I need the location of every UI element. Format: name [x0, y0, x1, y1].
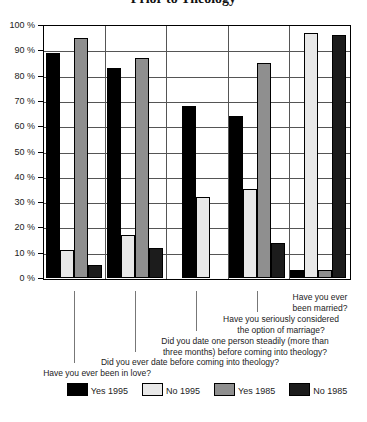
legend-swatch-no-1985: [289, 383, 310, 396]
bar-no-1995: [196, 197, 210, 278]
bar-no-1995: [121, 235, 135, 278]
y-axis-tick-label: 40 %: [0, 173, 35, 182]
bar-yes-1985: [135, 58, 149, 278]
bar-no-1985: [271, 243, 285, 278]
bar-no-1985: [149, 248, 163, 278]
legend-item: Yes 1995: [67, 383, 128, 396]
bar-yes-1985: [74, 38, 88, 278]
y-axis-tick-label: 90 %: [0, 46, 35, 55]
legend-item: No 1995: [142, 383, 200, 396]
chart-page: Prior to Theology 100 %90 %80 %70 %60 %5…: [0, 0, 367, 422]
category-label: Did you date one person steadily (more t…: [161, 336, 328, 357]
bar-no-1985: [332, 35, 346, 278]
y-axis-tick: [38, 25, 43, 26]
legend: Yes 1995No 1995Yes 1985No 1985: [47, 383, 367, 396]
y-axis-tick-label: 70 %: [0, 97, 35, 106]
legend-swatch-yes-1985: [214, 383, 235, 396]
legend-swatch-yes-1995: [67, 383, 88, 396]
bar-yes-1985: [318, 270, 332, 278]
y-axis-tick-label: 10 %: [0, 249, 35, 258]
category-leader-line: [74, 291, 75, 363]
y-axis-tick: [38, 76, 43, 77]
y-axis-tick-label: 0 %: [0, 274, 35, 283]
bar-no-1995: [60, 250, 74, 278]
category-leader-line: [135, 291, 136, 352]
bar-yes-1995: [107, 68, 121, 278]
y-axis-tick-label: 80 %: [0, 72, 35, 81]
legend-label: No 1985: [313, 386, 347, 396]
legend-label: Yes 1995: [91, 386, 128, 396]
y-axis-tick-label: 20 %: [0, 223, 35, 232]
category-label: Have you everbeen married?: [293, 292, 348, 313]
bar-no-1995: [243, 189, 257, 278]
y-axis-tick: [38, 202, 43, 203]
legend-swatch-no-1995: [142, 383, 163, 396]
legend-label: Yes 1985: [238, 386, 275, 396]
category-leader-line: [257, 291, 258, 312]
y-axis-tick: [38, 177, 43, 178]
y-axis-tick-label: 50 %: [0, 148, 35, 157]
bar-yes-1995: [290, 270, 304, 278]
legend-label: No 1995: [166, 386, 200, 396]
category-label: Have you seriously consideredthe option …: [223, 314, 339, 335]
gridline-vertical: [166, 26, 167, 279]
y-axis-tick: [38, 227, 43, 228]
category-leader-line: [196, 291, 197, 331]
y-axis-tick-label: 60 %: [0, 122, 35, 131]
y-axis-tick: [38, 126, 43, 127]
chart-title: Prior to Theology: [0, 0, 367, 7]
bar-yes-1995: [182, 106, 196, 278]
bar-yes-1985: [257, 63, 271, 278]
bar-yes-1995: [229, 116, 243, 278]
y-axis-tick: [38, 253, 43, 254]
gridline-vertical: [289, 26, 290, 279]
legend-item: No 1985: [289, 383, 347, 396]
y-axis-tick-label: 100 %: [0, 21, 35, 30]
y-axis-tick-label: 30 %: [0, 198, 35, 207]
category-label: Did you ever date before coming into the…: [101, 357, 279, 368]
bar-yes-1995: [46, 53, 60, 278]
y-axis-tick: [38, 152, 43, 153]
bar-no-1995: [304, 33, 318, 278]
bar-no-1985: [88, 265, 102, 278]
category-label: Have you ever been in love?: [43, 368, 151, 379]
y-axis-tick: [38, 50, 43, 51]
legend-item: Yes 1985: [214, 383, 275, 396]
y-axis-tick: [38, 278, 43, 279]
y-axis-tick: [38, 101, 43, 102]
